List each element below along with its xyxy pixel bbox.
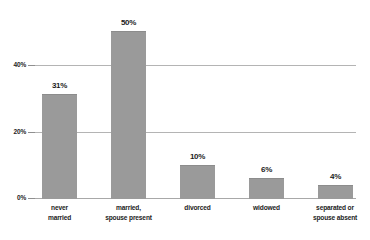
category-label-never-married: never married	[25, 203, 94, 223]
bar-value-widowed: 6%	[244, 165, 289, 174]
category-label-line2: married	[25, 213, 94, 223]
tick-stub-20	[28, 132, 35, 133]
bar-chart: 40% 20% 0% 31% 50% 10% 6% 4% never marri…	[0, 0, 370, 240]
bar-value-divorced: 10%	[175, 152, 220, 161]
tick-stub-0	[28, 198, 35, 199]
bar-value-never-married: 31%	[37, 81, 82, 90]
bar-never-married[interactable]	[42, 94, 77, 199]
category-label-line1: separated or	[316, 204, 354, 211]
bar-separated-or-spouse-absent[interactable]	[318, 185, 353, 199]
gridline-20	[34, 132, 356, 133]
plot-area: 40% 20% 0% 31% 50% 10% 6% 4% never marri…	[0, 0, 370, 240]
gridline-40	[34, 65, 356, 66]
bar-value-separated-or-spouse-absent: 4%	[313, 172, 358, 181]
category-label-line2: spouse present	[92, 213, 165, 223]
category-label-line1: divorced	[184, 204, 210, 211]
category-label-line2: spouse absent	[299, 213, 370, 223]
y-tick-label-20: 20%	[0, 128, 26, 135]
category-label-line1: married,	[116, 204, 141, 211]
bar-married-spouse-present[interactable]	[111, 31, 146, 199]
y-tick-label-40: 40%	[0, 61, 26, 68]
bar-value-married-spouse-present: 50%	[106, 18, 151, 27]
bar-divorced[interactable]	[180, 165, 215, 199]
category-label-widowed: widowed	[232, 203, 301, 213]
category-label-separated-or-spouse-absent: separated or spouse absent	[299, 203, 370, 223]
tick-stub-40	[28, 65, 35, 66]
category-label-line1: never	[51, 204, 68, 211]
category-label-married-spouse-present: married, spouse present	[92, 203, 165, 223]
category-label-divorced: divorced	[163, 203, 232, 213]
y-tick-label-0: 0%	[0, 194, 26, 201]
category-label-line1: widowed	[253, 204, 280, 211]
bar-widowed[interactable]	[249, 178, 284, 199]
